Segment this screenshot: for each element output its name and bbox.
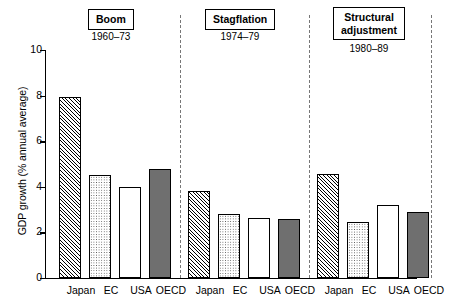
bar-boom-japan <box>59 97 81 278</box>
y-axis-title: GDP growth (% annual average) <box>16 61 28 261</box>
period-title-structural-adjustment: Structuraladjustment <box>333 7 405 40</box>
period-title-stagflation: Stagflation <box>205 9 275 30</box>
y-tick-label: 2 <box>36 225 42 237</box>
x-label-oecd: OECD <box>406 284 449 296</box>
bar-structural-adjustment-ec <box>347 222 369 278</box>
bar-boom-usa <box>119 187 141 278</box>
x-axis-line <box>45 278 417 279</box>
period-separator-3 <box>431 15 432 278</box>
period-separator-1 <box>180 15 181 278</box>
period-title-line-1: Structural <box>341 11 397 24</box>
bar-stagflation-oecd <box>278 219 300 278</box>
y-tick-label: 10 <box>30 43 42 55</box>
bar-boom-oecd <box>149 169 171 278</box>
bar-stagflation-usa <box>248 218 270 278</box>
period-years-boom: 1960–73 <box>92 31 131 42</box>
period-title-line-2: adjustment <box>341 24 397 37</box>
bar-structural-adjustment-oecd <box>407 212 429 278</box>
y-tick-label: 0 <box>36 271 42 283</box>
plot-area: 1086420 JapanECUSAOECDJapanECUSAOECDJapa… <box>45 50 417 278</box>
y-tick-label: 8 <box>36 89 42 101</box>
period-title-boom: Boom <box>88 9 134 30</box>
bar-structural-adjustment-japan <box>317 174 339 278</box>
y-axis-line <box>45 50 46 278</box>
period-years-stagflation: 1974–79 <box>221 31 260 42</box>
bar-stagflation-japan <box>188 191 210 278</box>
bar-structural-adjustment-usa <box>377 205 399 278</box>
y-tick-label: 6 <box>36 134 42 146</box>
bar-boom-ec <box>89 175 111 278</box>
period-separator-2 <box>309 15 310 278</box>
period-years-structural-adjustment: 1980–89 <box>350 43 389 54</box>
y-tick-label: 4 <box>36 180 42 192</box>
bar-stagflation-ec <box>218 214 240 278</box>
